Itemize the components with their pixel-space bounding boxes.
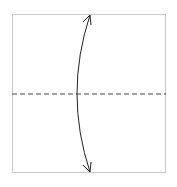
- origami-diagram: [0, 0, 177, 187]
